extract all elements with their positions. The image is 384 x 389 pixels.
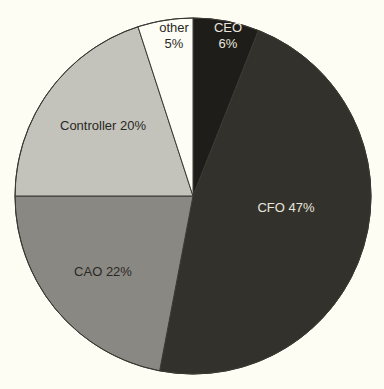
pie-chart: CEO6%CFO 47%CAO 22%Controller 20%other5% — [0, 0, 384, 389]
slice-label-cfo: CFO 47% — [257, 200, 315, 215]
pie-slices — [15, 18, 371, 374]
slice-label-cao: CAO 22% — [74, 264, 132, 279]
slice-label-controller: Controller 20% — [60, 118, 146, 133]
